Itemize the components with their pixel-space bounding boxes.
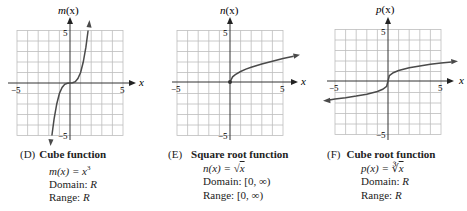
y-axis-arrow-icon (67, 17, 73, 24)
range: Range: [0, ∞) (168, 189, 288, 203)
axes (8, 22, 133, 140)
x-axis-arrow-icon (291, 79, 298, 85)
curve-arrow-right-icon (451, 59, 458, 64)
function-name: Cube function (39, 148, 106, 160)
tick-label-x-neg5: −5 (329, 83, 339, 93)
axes (172, 22, 295, 140)
domain: Domain: R (20, 178, 106, 192)
curve-arrow-top-icon (87, 20, 92, 28)
y-axis-arrow-icon (385, 17, 391, 24)
function-name: Cube root function (346, 148, 435, 160)
graph-square-root-function: n(x) x −5 5 5 −5 (155, 0, 310, 145)
range: Range: R (20, 191, 106, 205)
panel-cube-function: m(x) x −5 5 5 −5 (D)Cube function m(x) =… (0, 0, 155, 211)
formula: p(x) = ∛x (327, 162, 435, 176)
x-axis-label: x (458, 74, 464, 86)
caption-square-root-function: (E)Square root function n(x) = √x Domain… (168, 148, 288, 202)
graph-cube-function: m(x) x −5 5 5 −5 (0, 0, 155, 145)
tick-label-y-pos5: 5 (223, 28, 228, 38)
tick-label-y-pos5: 5 (381, 27, 386, 37)
tick-label-x-pos5: 5 (438, 83, 443, 93)
tick-label-y-pos5: 5 (63, 28, 68, 38)
figure-letter: (F) (327, 148, 340, 160)
range: Range: R (327, 189, 435, 203)
x-axis-arrow-icon (447, 78, 454, 84)
curve-arrow-left-icon (323, 98, 331, 103)
tick-label-x-neg5: −5 (11, 85, 21, 95)
y-axis-label: p(x) (375, 3, 395, 16)
domain: Domain: R (327, 175, 435, 189)
panel-square-root-function: n(x) x −5 5 5 −5 (E)Square root function… (155, 0, 310, 211)
curve-arrow-bottom-icon (48, 139, 53, 146)
panel-cube-root-function: p(x) x −5 5 5 −5 (F)Cube root function p… (310, 0, 467, 211)
caption-cube-root-function: (F)Cube root function p(x) = ∛x Domain: … (327, 148, 435, 202)
figure-letter: (D) (20, 148, 35, 160)
caption-cube-function: (D)Cube function m(x) = x3 Domain: R Ran… (20, 148, 106, 205)
tick-label-y-neg5: −5 (58, 131, 68, 141)
formula: m(x) = x3 (20, 162, 106, 178)
formula: n(x) = √x (168, 162, 288, 176)
domain: Domain: [0, ∞) (168, 175, 288, 189)
start-point-dot (228, 80, 232, 84)
tick-label-y-neg5: −5 (218, 131, 228, 141)
tick-label-x-neg5: −5 (171, 84, 181, 94)
function-name: Square root function (191, 148, 288, 160)
curve-arrow-right-icon (293, 54, 300, 59)
graph-cube-root-function: p(x) x −5 5 5 −5 (310, 0, 467, 145)
x-axis-label: x (300, 75, 306, 87)
tick-label-y-neg5: −5 (376, 130, 386, 140)
x-axis-arrow-icon (129, 80, 136, 86)
tick-label-x-pos5: 5 (280, 84, 285, 94)
y-axis-label: m(x) (58, 4, 79, 17)
y-axis-arrow-icon (227, 17, 233, 24)
x-axis-label: x (138, 76, 144, 88)
figure-letter: (E) (168, 148, 182, 160)
tick-label-x-pos5: 5 (120, 85, 125, 95)
y-axis-label: n(x) (220, 4, 239, 17)
